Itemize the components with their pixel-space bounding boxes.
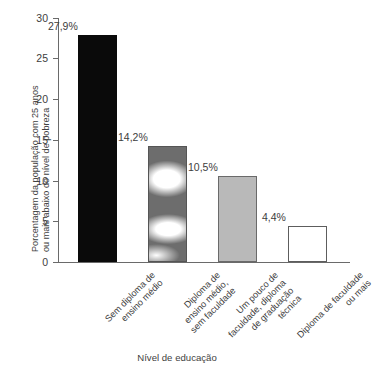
bar-value-label-4: 4,4% (262, 212, 286, 223)
y-tick-label-30: 30 (8, 13, 48, 24)
bar-value-label-2: 14,2% (118, 132, 148, 143)
y-tick-label-10: 10 (8, 176, 48, 187)
x-axis-title: Nível de educação (0, 352, 354, 363)
bar-sem-diploma-ensino-medio (78, 35, 117, 262)
x-category-label-4-line-1: Diploma de faculdade (295, 270, 365, 340)
bar-diploma-ensino-medio-sem-faculdade (148, 146, 187, 262)
y-tick-label-0: 0 (8, 257, 48, 268)
y-tick-label-20: 20 (8, 94, 48, 105)
plot-area (58, 18, 350, 262)
bar-value-label-1: 27,9% (48, 21, 78, 32)
bar-um-pouco-de-faculdade (218, 176, 257, 262)
bar-value-label-3: 10,5% (188, 162, 218, 173)
y-tick-0 (53, 262, 58, 263)
y-axis-title: Porcentagem da população com 25 anos ou … (6, 0, 40, 268)
y-tick-label-25: 25 (8, 53, 48, 64)
y-tick-label-5: 5 (8, 216, 48, 227)
x-axis-line (58, 262, 350, 263)
y-tick-label-15: 15 (8, 135, 48, 146)
y-axis-title-line-1: Porcentagem da população com 25 anos (30, 85, 40, 252)
bar-diploma-de-faculdade-ou-mais (288, 226, 327, 262)
